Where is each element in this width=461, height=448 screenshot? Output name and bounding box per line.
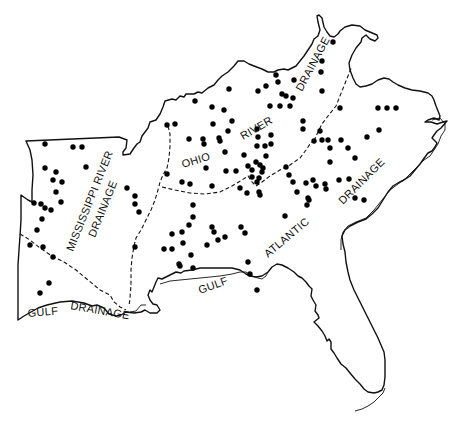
occurrence-dot	[393, 105, 398, 110]
occurrence-dot	[209, 224, 214, 229]
occurrence-dot	[263, 153, 268, 158]
occurrence-dot	[306, 197, 311, 202]
occurrence-dot	[311, 138, 316, 143]
occurrence-dot	[375, 105, 380, 110]
occurrence-dot	[317, 128, 322, 133]
occurrence-dot	[200, 136, 205, 141]
occurrence-dot	[83, 164, 88, 169]
occurrence-dot	[169, 231, 174, 236]
occurrence-dot	[327, 145, 332, 150]
occurrence-dot	[179, 179, 184, 184]
occurrence-dot	[325, 137, 330, 142]
occurrence-dot	[267, 103, 272, 108]
occurrence-dot	[226, 86, 231, 91]
occurrence-dot	[254, 287, 259, 292]
occurrence-dot	[268, 141, 273, 146]
occurrence-dot	[164, 122, 169, 127]
occurrence-dot	[290, 95, 295, 100]
occurrence-dot	[237, 185, 242, 190]
occurrence-dot	[303, 180, 308, 185]
occurrence-dot	[319, 137, 324, 142]
occurrence-dot	[245, 259, 250, 264]
occurrence-dot	[304, 202, 309, 207]
occurrence-dot	[46, 280, 51, 285]
occurrence-dot	[268, 132, 273, 137]
occurrence-dot	[164, 171, 169, 176]
occurrence-dot	[273, 72, 278, 77]
occurrence-dot	[336, 177, 341, 182]
occurrence-dot	[277, 103, 282, 108]
occurrence-dot	[313, 183, 318, 188]
occurrence-dot	[190, 265, 195, 270]
occurrence-dot	[223, 168, 228, 173]
occurrence-dot	[31, 200, 36, 205]
occurrence-dot	[300, 126, 305, 131]
occurrence-dot	[222, 149, 227, 154]
occurrence-dot	[255, 88, 260, 93]
occurrence-dot	[221, 107, 226, 112]
occurrence-dot	[263, 83, 268, 88]
occurrence-dot	[300, 118, 305, 123]
occurrence-dot	[53, 189, 58, 194]
occurrence-dot	[310, 177, 315, 182]
occurrence-dot	[361, 197, 366, 202]
occurrence-dot	[39, 216, 44, 221]
occurrence-dot	[42, 141, 47, 146]
occurrence-dot	[247, 271, 252, 276]
occurrence-dot	[249, 174, 254, 179]
occurrence-dot	[286, 172, 291, 177]
occurrence-dot	[201, 141, 206, 146]
occurrence-dot	[283, 93, 288, 98]
occurrence-dot	[319, 88, 324, 93]
occurrence-dot	[161, 246, 166, 251]
occurrence-dot	[48, 207, 53, 212]
occurrence-dot	[376, 127, 381, 132]
occurrence-dot	[233, 168, 238, 173]
label-gulf-west: GULF	[27, 304, 58, 319]
occurrence-dot	[186, 222, 191, 227]
occurrence-dot	[132, 244, 137, 249]
label-drainage-atlantic: DRAINAGE	[336, 156, 387, 207]
occurrence-dot	[322, 181, 327, 186]
occurrence-dot	[275, 79, 280, 84]
occurrence-dot	[190, 214, 195, 219]
occurrence-dot	[50, 254, 55, 259]
occurrence-dot	[337, 105, 342, 110]
occurrence-dot	[244, 190, 249, 195]
occurrence-dot	[42, 205, 47, 210]
occurrence-dot	[34, 227, 39, 232]
occurrence-dot	[37, 290, 42, 295]
occurrence-dot	[241, 152, 246, 157]
occurrence-dot	[132, 193, 137, 198]
occurrence-dot	[323, 186, 328, 191]
occurrence-dot	[132, 201, 137, 206]
occurrence-dot	[352, 155, 357, 160]
occurrence-dot	[217, 138, 222, 143]
occurrence-dot	[50, 177, 55, 182]
occurrence-dot	[327, 159, 332, 164]
occurrence-dot	[254, 143, 259, 148]
occurrence-dot	[124, 185, 129, 190]
occurrence-dot	[209, 183, 214, 188]
drainage-map: OHIO RIVER DRAINAGE MISSISSIPPI RIVER DR…	[0, 0, 461, 448]
occurrence-dot	[282, 213, 287, 218]
label-drainage-gulf-west: DRAINAGE	[70, 299, 131, 321]
occurrence-dot	[79, 144, 84, 149]
occurrence-dot	[180, 240, 185, 245]
occurrence-dot	[245, 163, 250, 168]
occurrence-dot	[190, 202, 195, 207]
divide-mississippi-ohio	[129, 126, 170, 306]
occurrence-dot	[169, 246, 174, 251]
occurrence-dot	[254, 179, 259, 184]
occurrence-dot	[229, 118, 234, 123]
occurrence-dot	[211, 229, 216, 234]
occurrence-dot	[255, 134, 260, 139]
occurrence-dot	[176, 261, 181, 266]
occurrence-dot	[27, 242, 32, 247]
occurrence-dot	[345, 145, 350, 150]
occurrence-dot	[58, 199, 63, 204]
occurrence-dot	[294, 189, 299, 194]
occurrence-dot	[384, 105, 389, 110]
occurrence-dot	[70, 144, 75, 149]
occurrence-dot	[53, 169, 58, 174]
